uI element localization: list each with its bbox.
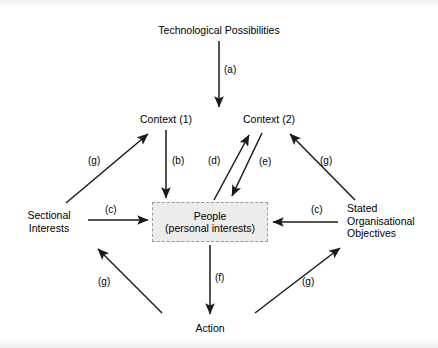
edge-label-d: (d)	[208, 155, 220, 166]
node-stated-organisational-objectives: Stated Organisational Objectives	[347, 202, 438, 240]
node-context-1: Context (1)	[121, 113, 211, 126]
node-technological-possibilities: Technological Possibilities	[119, 24, 319, 37]
edge-label-e: (e)	[259, 156, 271, 167]
edge-g-upper-right-arrow	[290, 134, 355, 200]
arrow-layer	[0, 0, 438, 348]
edge-label-g-lower-left: (g)	[98, 276, 110, 287]
edge-g-upper-left-arrow	[66, 134, 148, 203]
node-sectional-interests: Sectional Interests	[8, 209, 90, 234]
edge-d-arrow	[214, 135, 249, 200]
diagram-canvas: Technological Possibilities Context (1) …	[0, 0, 438, 348]
node-context-2: Context (2)	[224, 113, 314, 126]
edge-label-g-upper-right: (g)	[320, 155, 332, 166]
edge-g-lower-right-arrow	[255, 248, 340, 313]
edge-label-c-left: (c)	[105, 204, 117, 215]
node-action: Action	[170, 322, 250, 335]
edge-label-f: (f)	[215, 272, 224, 283]
edge-label-a: (a)	[224, 64, 236, 75]
edge-label-g-lower-right: (g)	[302, 276, 314, 287]
edge-label-b: (b)	[172, 155, 184, 166]
node-people-box: People (personal interests)	[152, 202, 268, 242]
node-people-label: People (personal interests)	[165, 210, 255, 235]
edge-label-c-right: (c)	[311, 204, 323, 215]
edge-e-arrow	[232, 133, 262, 196]
edge-label-g-upper-left: (g)	[88, 155, 100, 166]
